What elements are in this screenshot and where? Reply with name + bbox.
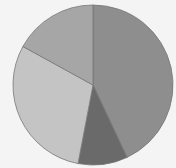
pie-chart — [0, 0, 176, 168]
pie-slices — [13, 5, 173, 165]
